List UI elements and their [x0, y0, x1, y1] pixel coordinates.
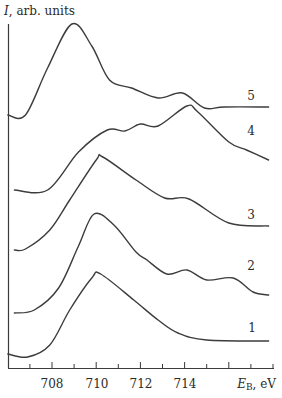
x-axis-ticks	[30, 362, 273, 368]
tick-label-714: 714	[174, 377, 197, 391]
xps-spectra-chart: I, arb. units 708 710 712 714 EB, eV 1 2…	[0, 0, 282, 398]
tick-label-712: 712	[130, 377, 153, 391]
y-axis-title: I, arb. units	[3, 4, 75, 18]
curve-label-5: 5	[247, 89, 255, 103]
spectrum-curve-5	[8, 23, 269, 118]
x-axis-unit: , eV	[253, 377, 277, 391]
spectrum-curve-2	[14, 213, 268, 313]
curve-label-2: 2	[247, 259, 255, 273]
spectrum-curve-3	[14, 155, 268, 251]
curve-label-1: 1	[248, 321, 256, 335]
x-axis-title: EB, eV	[236, 377, 276, 392]
spectrum-curve-4	[14, 105, 268, 193]
x-axis-symbol: E	[236, 377, 246, 391]
tick-label-708: 708	[41, 377, 64, 391]
y-axis-unit: , arb. units	[9, 4, 75, 18]
curve-label-4: 4	[247, 124, 255, 138]
tick-label-710: 710	[86, 377, 109, 391]
spectrum-curve-1	[8, 272, 269, 357]
curve-label-3: 3	[247, 208, 255, 222]
